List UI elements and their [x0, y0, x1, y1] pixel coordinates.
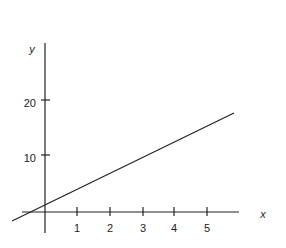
x-tick-label-2: 2 — [107, 222, 113, 234]
x-axis-label: x — [259, 208, 266, 220]
x-tick-label-3: 3 — [140, 222, 146, 234]
y-tick-label-20: 20 — [24, 97, 36, 109]
x-tick-label-5: 5 — [204, 222, 210, 234]
y-axis-label: y — [28, 43, 36, 55]
y-tick-label-10: 10 — [24, 152, 36, 164]
x-tick-label-1: 1 — [74, 222, 80, 234]
line-chart: 1 2 3 4 5 20 10 y x — [0, 0, 286, 248]
x-tick-label-4: 4 — [171, 222, 177, 234]
